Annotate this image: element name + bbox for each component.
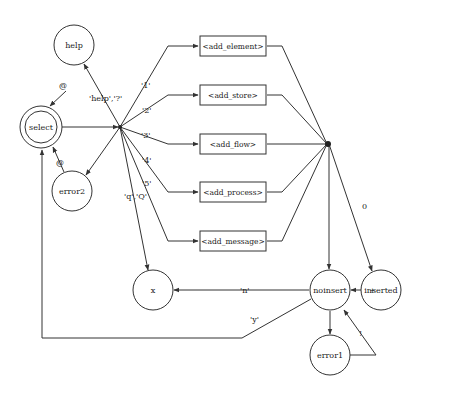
edge-opt1	[120, 46, 198, 127]
action-add-message[interactable]: <add_message>	[200, 231, 266, 251]
state-diagram: help select error2 x noinsert inserted e…	[0, 0, 453, 395]
state-x[interactable]: x	[133, 270, 173, 310]
label-opt2: '2'	[142, 106, 152, 115]
junction-hub-right	[325, 141, 331, 147]
state-noinsert[interactable]: noinsert	[310, 270, 350, 310]
svg-text:noinsert: noinsert	[313, 286, 347, 295]
svg-text:<add_element>: <add_element>	[202, 42, 263, 51]
label-zero: 0	[362, 202, 367, 211]
svg-text:error2: error2	[59, 187, 85, 196]
state-error1[interactable]: error1	[310, 335, 350, 375]
label-opt4: '4'	[142, 156, 152, 165]
label-no: 'n'	[240, 286, 250, 295]
svg-text:<add_message>: <add_message>	[201, 237, 264, 246]
label-yes: 'y'	[250, 315, 259, 324]
edge-opt2	[120, 95, 198, 127]
edge-opt4	[120, 127, 198, 192]
state-inserted[interactable]: inserted	[361, 270, 401, 310]
label-quit: 'q','Q'	[124, 192, 147, 201]
label-opt3: '3'	[141, 131, 151, 140]
label-plus: +	[369, 286, 376, 295]
label-to-help: 'help','?'	[89, 94, 122, 103]
svg-text:error1: error1	[317, 351, 343, 360]
action-add-store[interactable]: <add_store>	[200, 85, 266, 105]
edge-box4-out	[267, 144, 327, 192]
edge-opt3	[120, 127, 198, 144]
edge-help-to-select	[50, 91, 66, 106]
edge-box2-out	[267, 95, 327, 144]
state-select[interactable]: select	[20, 106, 62, 148]
label-opt5: '5'	[142, 179, 152, 188]
state-help[interactable]: help	[54, 25, 94, 65]
label-opt1: '1'	[141, 81, 151, 90]
svg-text:select: select	[29, 123, 54, 132]
state-error2[interactable]: error2	[52, 171, 92, 211]
label-bang: !	[359, 329, 362, 338]
svg-text:<add_flow>: <add_flow>	[210, 140, 256, 149]
edge-hub-to-error2	[86, 127, 120, 175]
junction-hub-left	[118, 125, 122, 129]
label-help-to-select: @	[59, 81, 67, 90]
action-add-flow[interactable]: <add_flow>	[200, 134, 266, 154]
svg-text:help: help	[65, 41, 83, 50]
svg-text:<add_store>: <add_store>	[208, 91, 258, 100]
svg-text:<add_process>: <add_process>	[203, 188, 263, 197]
svg-text:x: x	[151, 286, 156, 295]
action-add-process[interactable]: <add_process>	[200, 182, 266, 202]
label-error2-to-select: @	[56, 158, 64, 167]
action-add-element[interactable]: <add_element>	[200, 36, 266, 56]
